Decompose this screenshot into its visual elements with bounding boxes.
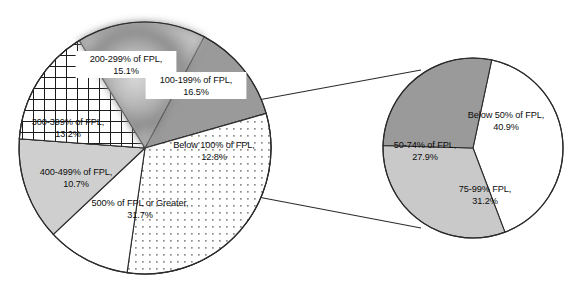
slice-value-text: 13.2%: [55, 129, 81, 139]
slice-label-text: Below 50% of FPL,: [468, 110, 544, 120]
slice-value-text: 16.5%: [183, 87, 209, 97]
slice-label-text: 500% of FPL or Greater,: [92, 198, 189, 208]
slice-label-text: 400-499% of FPL,: [40, 167, 112, 177]
pie-chart-figure: Below 100% of FPL,12.8%500% of FPL or Gr…: [0, 0, 583, 292]
slice-label-text: 200-299% of FPL,: [90, 54, 162, 64]
slice-label-text: 50-74% of FPL,: [394, 140, 456, 150]
slice-label: 100-199% of FPL,16.5%: [146, 72, 247, 99]
slice-value-text: 15.1%: [113, 66, 139, 76]
slice-value-text: 10.7%: [63, 179, 89, 189]
slice-value-text: 40.9%: [493, 122, 519, 132]
chart-svg: Below 100% of FPL,12.8%500% of FPL or Gr…: [0, 0, 583, 292]
slice-label-text: Below 100% of FPL,: [173, 140, 254, 150]
slice-value-text: 31.2%: [472, 196, 498, 206]
slice-label-text: 100-199% of FPL,: [160, 75, 232, 85]
slice-value-text: 31.7%: [127, 210, 153, 220]
slice-value-text: 27.9%: [412, 152, 438, 162]
slice-label-text: 300-399% of FPL,: [32, 117, 104, 127]
slice-label-text: 75-99% FPL,: [459, 184, 512, 194]
slice-value-text: 12.8%: [201, 152, 227, 162]
